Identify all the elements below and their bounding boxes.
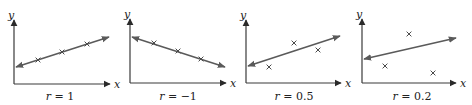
x-axis-label: x: [230, 77, 237, 90]
regression-line: [364, 38, 456, 59]
regression-line: [248, 36, 340, 66]
r-value: 1: [67, 90, 74, 103]
data-point-cross-icon: [431, 71, 436, 76]
y-axis-label: y: [355, 8, 363, 21]
correlation-label: r = −1: [159, 90, 197, 103]
data-point-cross-icon: [407, 32, 412, 37]
y-axis-label: y: [123, 8, 131, 21]
equals-sign: =: [164, 90, 180, 103]
equals-sign: =: [51, 90, 67, 103]
y-axis-label: y: [239, 9, 247, 22]
correlation-label: r = 1: [46, 90, 74, 103]
equals-sign: =: [398, 90, 414, 103]
scatter-panel: yxr = 0.5: [239, 9, 352, 103]
correlation-label: r = 0.2: [393, 90, 432, 103]
x-axis-label: x: [460, 77, 467, 90]
data-point-cross-icon: [383, 64, 388, 69]
y-axis-label: y: [7, 9, 15, 22]
correlation-label: r = 0.5: [275, 90, 314, 103]
correlation-figure: yxr = 1yxr = −1yxr = 0.5yxr = 0.2: [0, 0, 472, 105]
scatter-panel: yxr = 1: [7, 9, 121, 103]
data-point-cross-icon: [292, 41, 297, 46]
equals-sign: =: [280, 90, 296, 103]
data-point-cross-icon: [316, 48, 321, 53]
r-value: −1: [181, 90, 197, 103]
r-value: 0.5: [296, 90, 314, 103]
x-axis-label: x: [345, 77, 352, 90]
data-point-cross-icon: [267, 65, 272, 70]
r-value: 0.2: [414, 90, 432, 103]
scatter-panel: yxr = −1: [123, 8, 237, 103]
scatter-panel: yxr = 0.2: [355, 8, 467, 103]
x-axis-label: x: [114, 78, 121, 91]
